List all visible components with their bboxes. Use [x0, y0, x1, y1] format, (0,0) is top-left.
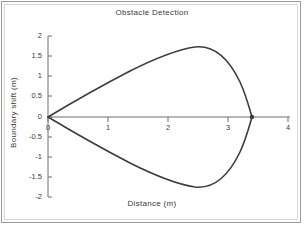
y-tick-label: -1	[20, 152, 42, 161]
figure-root: Obstacle Detection	[0, 0, 304, 226]
y-tick-label: 1	[20, 71, 42, 80]
upper-boundary-curve	[48, 47, 252, 117]
y-tick-label: -0.5	[20, 132, 42, 141]
y-axis-title: Boundary shift (m)	[9, 58, 18, 168]
y-tick-label: 1.5	[20, 51, 42, 60]
x-tick-label: 1	[99, 123, 117, 132]
y-tick-label: 0	[20, 112, 42, 121]
x-axis-title: Distance (m)	[0, 199, 304, 208]
convergence-point-marker	[250, 115, 254, 119]
x-tick-label: 0	[39, 123, 57, 132]
y-tick-label: -1.5	[20, 172, 42, 181]
plot-canvas	[0, 0, 304, 226]
x-tick-label: 3	[219, 123, 237, 132]
x-tick-label: 4	[279, 123, 297, 132]
y-tick-label: 0.5	[20, 91, 42, 100]
x-tick-label: 2	[159, 123, 177, 132]
y-tick-label: 2	[20, 31, 42, 40]
